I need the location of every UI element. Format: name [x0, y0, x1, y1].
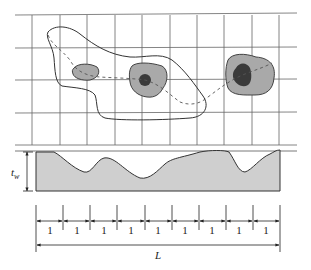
total-length-label: L [154, 249, 161, 261]
svg-text:1: 1 [263, 224, 269, 236]
svg-text:1: 1 [128, 224, 134, 236]
svg-text:1: 1 [47, 224, 53, 236]
svg-text:1: 1 [155, 224, 161, 236]
weld-profile [36, 150, 280, 191]
weld-diagram: tw 1 1 1 1 1 1 1 1 1 L [0, 0, 311, 270]
svg-text:1: 1 [209, 224, 215, 236]
svg-text:1: 1 [74, 224, 80, 236]
svg-text:1: 1 [182, 224, 188, 236]
outer-contour [47, 27, 206, 120]
small-blob-left [72, 64, 98, 80]
svg-text:1: 1 [101, 224, 107, 236]
segment-labels: 1 1 1 1 1 1 1 1 1 [47, 224, 269, 236]
thickness-label: tw [11, 166, 20, 181]
svg-text:1: 1 [236, 224, 242, 236]
